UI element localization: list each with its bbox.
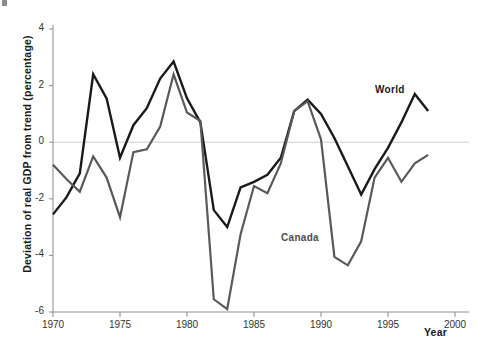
series-label-world: World — [375, 84, 405, 95]
x-tick-label: 1990 — [301, 319, 341, 330]
x-tick-label: 1970 — [33, 319, 73, 330]
y-tick-label: -2 — [22, 192, 44, 203]
x-axis-title: Year — [424, 326, 447, 338]
chart-figure: Deviation of real GDP from trend (percen… — [0, 0, 481, 346]
x-tick-label: 1975 — [100, 319, 140, 330]
x-tick-label: 1985 — [234, 319, 274, 330]
y-tick-label: -4 — [22, 248, 44, 259]
x-tick-label: 1995 — [368, 319, 408, 330]
y-tick-label: -6 — [22, 305, 44, 316]
y-tick-label: 4 — [22, 22, 44, 33]
series-label-canada: Canada — [281, 232, 319, 243]
y-tick-label: 0 — [22, 135, 44, 146]
y-tick-label: 2 — [22, 79, 44, 90]
x-tick-label: 1980 — [167, 319, 207, 330]
line-chart-plot — [0, 0, 481, 346]
series-line-world — [53, 62, 428, 228]
